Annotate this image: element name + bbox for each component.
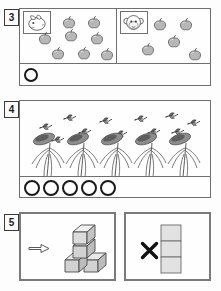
answer-circle[interactable]	[24, 68, 38, 82]
exercise-number-5: 5	[4, 214, 19, 231]
apple	[62, 15, 76, 28]
apple-icon	[38, 32, 52, 45]
cube-structure-panel[interactable]: 4 L-shaped cube stack	[19, 212, 116, 281]
answer-circle[interactable]	[43, 180, 59, 196]
apple	[167, 34, 181, 47]
exercise-3-panels: 8	[20, 9, 210, 63]
apple-icon	[64, 29, 78, 42]
flat-column-shape	[160, 224, 182, 274]
exercise-3-frame: 8	[19, 8, 211, 86]
bird-icon	[62, 112, 77, 123]
apple-icon	[141, 43, 155, 56]
bird	[164, 107, 179, 118]
answer-circle[interactable]	[24, 180, 40, 196]
flat-view-panel[interactable]: 3 vertical column of three squares	[124, 212, 211, 281]
apple	[90, 31, 104, 44]
exercise-3-answer-row[interactable]	[20, 63, 210, 85]
apple-icon	[188, 48, 202, 61]
cube-stack-shape	[51, 222, 113, 278]
bird-icon	[186, 117, 201, 128]
apple-icon	[179, 18, 193, 31]
apple	[38, 31, 52, 44]
exercise-4-answer-row[interactable]	[20, 176, 210, 197]
wheat-plant-icon	[30, 130, 66, 176]
apple-icon	[153, 18, 167, 31]
wheat-plant-icon	[98, 130, 134, 176]
x-mark-icon	[140, 241, 159, 260]
apple-icon	[100, 48, 114, 61]
apple	[153, 17, 167, 30]
apple-icon	[77, 47, 91, 60]
apple	[51, 46, 65, 59]
wheat-plant	[64, 130, 100, 176]
monkey-face-icon	[121, 12, 147, 33]
exercise-3-left-panel[interactable]: 8	[20, 9, 117, 63]
wheat-plant	[132, 130, 168, 176]
apple	[188, 47, 202, 60]
exercise-3-right-panel[interactable]: 5	[117, 9, 210, 63]
exercise-number-4: 4	[4, 101, 19, 118]
bird	[98, 112, 113, 123]
monkey-face-icon-box[interactable]	[120, 11, 148, 34]
birds-and-wheat-scene[interactable]: 11 5	[20, 101, 210, 176]
apple	[77, 46, 91, 59]
exercise-4-frame: 11 5	[19, 100, 211, 198]
apple	[179, 17, 193, 30]
apple-icon	[167, 35, 181, 48]
answer-circle[interactable]	[81, 180, 97, 196]
arrow-right-icon	[28, 242, 50, 255]
apple	[100, 47, 114, 60]
bird-icon	[98, 115, 113, 126]
bird	[186, 114, 201, 125]
wheat-plant	[98, 130, 134, 176]
answer-circle[interactable]	[62, 180, 78, 196]
apple	[64, 28, 78, 41]
answer-circle[interactable]	[100, 180, 116, 196]
apple	[141, 42, 155, 55]
bird-icon	[164, 110, 179, 121]
wheat-plant	[166, 130, 202, 176]
wheat-plant-icon	[166, 130, 202, 176]
bird	[133, 110, 148, 121]
worksheet-page: 3	[0, 0, 221, 291]
apple-icon	[51, 47, 65, 60]
apple-icon	[90, 32, 104, 45]
wheat-plant-icon	[64, 130, 100, 176]
apple	[87, 15, 101, 28]
bird	[62, 109, 77, 120]
wheat-plant	[30, 130, 66, 176]
exercise-number-3: 3	[4, 9, 19, 26]
bird	[38, 118, 53, 129]
rabbit-face-icon	[24, 12, 50, 33]
wheat-plant-icon	[132, 130, 168, 176]
apple-icon	[87, 16, 101, 29]
